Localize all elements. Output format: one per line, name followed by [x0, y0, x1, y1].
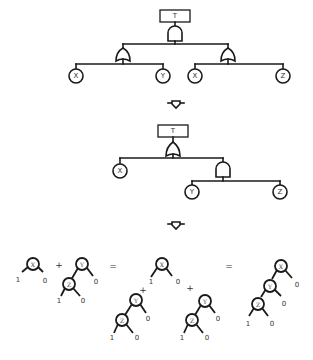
equals-operator: = [109, 261, 117, 271]
down-arrow-icon [168, 101, 184, 108]
bdd-equation: X 1 0 + Y Z 0 1 0 = X 1 0 [16, 258, 299, 342]
svg-text:X: X [31, 261, 36, 268]
svg-text:0: 0 [176, 278, 180, 286]
svg-text:0: 0 [282, 300, 286, 308]
down-arrow-icon [168, 222, 184, 229]
plus-operator: + [55, 260, 63, 270]
svg-text:X: X [118, 167, 123, 175]
svg-text:Z: Z [256, 301, 260, 308]
and-gate-icon [168, 26, 182, 41]
svg-text:Y: Y [189, 188, 195, 196]
bdd-middle-yz-left: Y Z 0 1 0 [110, 294, 150, 342]
svg-text:0: 0 [270, 320, 274, 328]
bdd-middle-yz-right: Y Z 0 1 0 [180, 295, 220, 342]
svg-text:0: 0 [146, 315, 150, 323]
top-event-label: T [172, 12, 178, 20]
svg-text:X: X [160, 261, 165, 268]
svg-text:1: 1 [149, 278, 153, 286]
plus-operator: + [186, 283, 194, 293]
svg-text:Z: Z [278, 188, 283, 196]
svg-text:Y: Y [160, 72, 166, 80]
bdd-result: X Y Z 0 0 1 0 [246, 260, 299, 328]
equals-operator: = [225, 261, 233, 271]
svg-text:1: 1 [110, 334, 114, 342]
bdd-term-yz: Y Z 0 1 0 [57, 258, 98, 305]
svg-text:1: 1 [16, 276, 20, 284]
svg-text:0: 0 [295, 281, 299, 289]
svg-text:1: 1 [180, 334, 184, 342]
svg-text:0: 0 [135, 334, 139, 342]
bdd-middle-x: X 1 0 [149, 258, 180, 286]
svg-text:0: 0 [43, 277, 47, 285]
svg-text:0: 0 [216, 315, 220, 323]
top-event-label: T [170, 127, 176, 135]
svg-text:0: 0 [94, 278, 98, 286]
svg-text:X: X [74, 72, 79, 80]
svg-text:0: 0 [81, 297, 85, 305]
svg-text:Z: Z [190, 317, 194, 324]
svg-text:X: X [193, 72, 198, 80]
fault-tree-diagram: T X Y X Z T [0, 0, 313, 360]
svg-text:Z: Z [281, 72, 286, 80]
svg-text:X: X [279, 263, 284, 270]
bdd-term-x: X 1 0 [16, 258, 47, 285]
fault-tree-original: T X Y X Z [69, 10, 290, 83]
svg-text:1: 1 [57, 297, 61, 305]
svg-text:Z: Z [120, 317, 124, 324]
svg-text:1: 1 [246, 320, 250, 328]
fault-tree-simplified: T X Y Z [113, 125, 287, 199]
svg-text:0: 0 [205, 334, 209, 342]
and-gate-icon [216, 162, 230, 177]
plus-operator: + [139, 285, 147, 295]
svg-text:Z: Z [67, 281, 71, 288]
